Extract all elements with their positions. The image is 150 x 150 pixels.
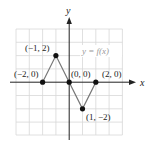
- label-2-0: (2, 0): [102, 69, 122, 79]
- x-axis-label: x: [139, 77, 145, 88]
- label-1-neg2: (1, −2): [86, 112, 111, 122]
- label-0-0: (0, 0): [71, 69, 91, 79]
- label-neg1-2: (−1, 2): [25, 43, 50, 53]
- function-label: y = f(x): [81, 46, 109, 56]
- x-axis-arrow-icon: [129, 80, 136, 85]
- point-2-0: [93, 80, 98, 85]
- label-neg2-0: (−2, 0): [14, 69, 39, 79]
- y-axis-label: y: [65, 5, 71, 16]
- point-neg1-2: [53, 53, 58, 58]
- function-graph: x y y = f(x) (−2, 0) (−1, 2) (0, 0) (1, …: [0, 0, 150, 150]
- point-1-neg2: [80, 106, 85, 111]
- y-axis-arrow-icon: [67, 17, 72, 24]
- point-neg2-0: [40, 80, 45, 85]
- point-0-0: [67, 80, 72, 85]
